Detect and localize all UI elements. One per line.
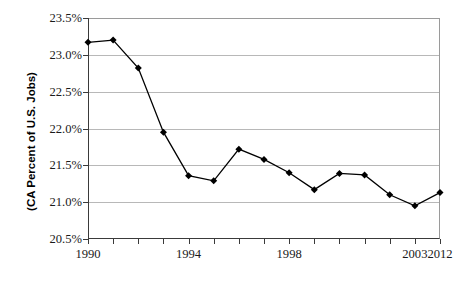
data-point-marker (311, 186, 318, 193)
series-polyline (88, 40, 440, 206)
chart-container: (CA Percent of U.S. Jobs) 23.5%23.0%22.5… (0, 0, 466, 283)
data-point-marker (437, 189, 444, 196)
data-point-marker (85, 39, 92, 46)
data-point-marker (411, 202, 418, 209)
data-point-marker (185, 172, 192, 179)
data-point-marker (261, 156, 268, 163)
data-point-marker (286, 169, 293, 176)
data-series-line (0, 0, 466, 283)
series-markers (85, 37, 444, 210)
data-point-marker (160, 129, 167, 136)
data-point-marker (336, 170, 343, 177)
